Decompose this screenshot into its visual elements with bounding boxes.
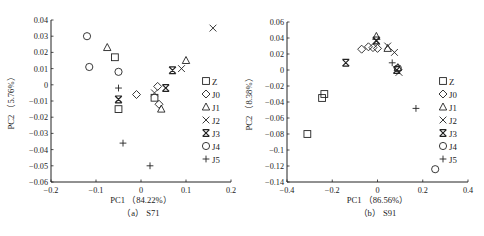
data-point <box>321 91 328 98</box>
diamond-icon <box>202 90 210 98</box>
data-point <box>169 67 176 74</box>
panel-caption: （a） S71 <box>122 208 159 218</box>
data-point <box>104 44 111 51</box>
data-point <box>182 57 189 64</box>
y-tick-label: −0.12 <box>265 162 284 171</box>
x-tick-label: 0 <box>375 186 379 195</box>
y-tick-label: 0.02 <box>34 48 48 57</box>
x-tick-label: −0.2 <box>44 186 59 195</box>
series-z <box>112 54 158 113</box>
asterisk-icon <box>203 130 210 137</box>
y-tick-label: 0.04 <box>34 16 48 25</box>
legend-label: Z <box>212 77 217 87</box>
data-point <box>413 105 420 112</box>
data-point <box>389 59 396 66</box>
x-axis-label: PC1 （84.22%） <box>110 195 171 205</box>
legend-label: J4 <box>449 142 457 152</box>
x-axis-label: PC1 （86.56%） <box>347 195 408 205</box>
y-tick-label: 0.06 <box>270 18 284 27</box>
data-point <box>154 82 162 90</box>
legend: ZJ0J1J2J3J4J5 <box>202 77 220 165</box>
figure: 0.040.030.020.010−0.01−0.02−0.03−0.04−0.… <box>0 0 484 236</box>
series-j3 <box>115 67 176 103</box>
y-tick-label: 0.01 <box>34 65 48 74</box>
y-tick-label: −0.06 <box>265 114 284 123</box>
series-z <box>304 91 328 138</box>
plus-icon <box>440 156 447 163</box>
series-j4 <box>394 65 439 173</box>
y-tick-label: −0.1 <box>269 146 284 155</box>
scatter-panel-b: 0.060.040.020−0.02−0.04−0.06−0.08−0.1−0.… <box>244 18 473 218</box>
legend-label: J0 <box>212 90 220 100</box>
legend-label: J0 <box>449 90 457 100</box>
data-point <box>210 25 217 32</box>
data-point <box>342 59 349 66</box>
legend-label: J1 <box>449 103 457 113</box>
x-tick-label: 0.4 <box>463 186 473 195</box>
data-point <box>120 140 127 147</box>
legend-label: J3 <box>449 129 457 139</box>
data-point <box>304 131 311 138</box>
data-point <box>319 95 326 102</box>
x-icon <box>203 117 210 124</box>
y-tick-label: −0.04 <box>29 146 48 155</box>
circle-icon <box>439 142 446 149</box>
x-icon <box>440 117 447 124</box>
x-tick-label: 0 <box>139 186 143 195</box>
diamond-icon <box>439 90 447 98</box>
y-axis-label: PC2 （5.76%） <box>6 72 16 129</box>
y-tick-label: 0.03 <box>34 32 48 41</box>
legend-label: J5 <box>449 155 457 165</box>
data-point <box>151 90 158 97</box>
data-point <box>162 85 169 92</box>
data-point <box>83 33 90 40</box>
x-tick-label: −0.2 <box>325 186 340 195</box>
legend: ZJ0J1J2J3J4J5 <box>439 77 457 165</box>
square-icon <box>440 78 447 85</box>
y-tick-label: 0.02 <box>270 50 284 59</box>
legend-label: J3 <box>212 129 220 139</box>
data-point <box>373 37 380 44</box>
scatter-panel-a: 0.040.030.020.010−0.01−0.02−0.03−0.04−0.… <box>6 16 236 218</box>
asterisk-icon <box>440 130 447 137</box>
data-point <box>178 65 185 72</box>
data-point <box>115 96 122 103</box>
square-icon <box>203 78 210 85</box>
panel-caption: （b） S91 <box>359 208 397 218</box>
y-tick-label: −0.08 <box>265 130 284 139</box>
y-tick-label: 0 <box>44 81 48 90</box>
data-point <box>86 63 93 70</box>
triangle-icon <box>202 103 209 110</box>
data-point <box>147 162 154 169</box>
data-point <box>133 91 141 99</box>
legend-label: J2 <box>449 116 457 126</box>
plus-icon <box>203 156 210 163</box>
y-tick-label: −0.04 <box>265 98 284 107</box>
legend-label: J5 <box>212 155 220 165</box>
y-tick-label: 0 <box>280 66 284 75</box>
y-tick-label: −0.02 <box>265 82 284 91</box>
y-tick-label: −0.01 <box>29 97 48 106</box>
legend-label: Z <box>449 77 454 87</box>
legend-label: J4 <box>212 142 220 152</box>
data-point <box>391 49 398 56</box>
legend-label: J2 <box>212 116 220 126</box>
series-j0 <box>133 82 164 108</box>
y-tick-label: −0.03 <box>29 129 48 138</box>
x-tick-label: −0.4 <box>280 186 295 195</box>
y-tick-label: −0.02 <box>29 113 48 122</box>
circle-icon <box>202 142 209 149</box>
data-point <box>432 166 439 173</box>
data-point <box>115 106 122 113</box>
legend-label: J1 <box>212 103 220 113</box>
x-tick-label: −0.1 <box>89 186 104 195</box>
data-point <box>112 54 119 61</box>
pca-figure: 0.040.030.020.010−0.01−0.02−0.03−0.04−0.… <box>0 0 484 236</box>
x-tick-label: 0.2 <box>226 186 236 195</box>
triangle-icon <box>439 103 446 110</box>
x-tick-label: 0.2 <box>418 186 428 195</box>
data-point <box>115 85 122 92</box>
y-axis-label: PC2 （8.38%） <box>244 73 254 130</box>
y-tick-label: 0.04 <box>270 34 284 43</box>
y-tick-label: −0.05 <box>29 162 48 171</box>
